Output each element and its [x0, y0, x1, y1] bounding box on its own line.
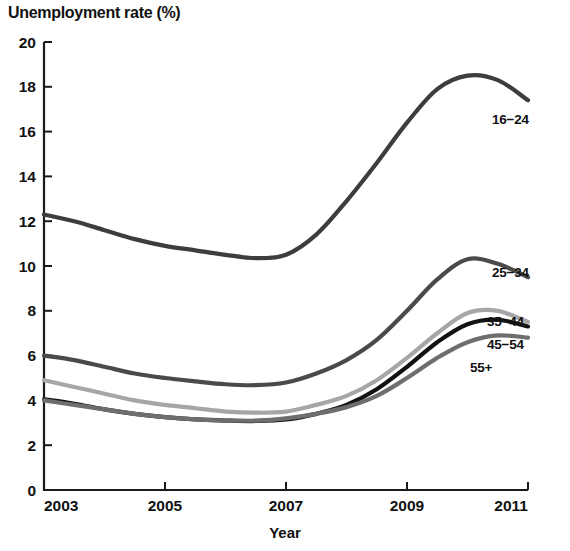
y-axis-tick-label: 2 [27, 437, 36, 454]
y-axis-tick-label: 14 [19, 168, 37, 185]
series-line-55+ [44, 335, 528, 420]
y-axis-tick-label: 12 [19, 213, 36, 230]
y-axis-tick-label: 8 [27, 302, 36, 319]
y-axis-tick-label: 16 [19, 123, 37, 140]
x-axis-tick-label: 2011 [494, 497, 528, 514]
series-label-35-44: 35−44 [487, 314, 525, 329]
y-axis-tick-label: 4 [27, 392, 36, 409]
y-axis-tick-label: 18 [19, 78, 37, 95]
unemployment-rate-chart: Unemployment rate (%) 02468101214161820 … [0, 0, 570, 551]
y-axis-tick-label: 6 [27, 347, 36, 364]
x-axis-tick-label: 2003 [44, 497, 79, 514]
y-axis-tick-label: 20 [19, 34, 36, 51]
series-line-35-44 [44, 310, 528, 413]
y-axis-tick-group: 02468101214161820 [19, 34, 52, 499]
series-label-16-24: 16−24 [492, 112, 530, 127]
chart-plot-area: 02468101214161820 20032005200720092011 1… [0, 0, 570, 551]
y-axis-tick-label: 0 [27, 482, 36, 499]
x-axis-tick-group: 20032005200720092011 [44, 482, 528, 514]
series-label-55+: 55+ [470, 360, 493, 375]
series-label-25-34: 25−34 [492, 265, 530, 280]
x-axis-tick-label: 2007 [269, 497, 303, 514]
series-line-16-24 [44, 75, 528, 258]
data-series-group [44, 75, 528, 421]
x-axis-tick-label: 2009 [390, 497, 425, 514]
x-axis-tick-label: 2005 [148, 497, 183, 514]
x-axis-title: Year [0, 524, 570, 541]
y-axis-tick-label: 10 [19, 258, 36, 275]
series-label-45-54: 45−54 [487, 337, 525, 352]
